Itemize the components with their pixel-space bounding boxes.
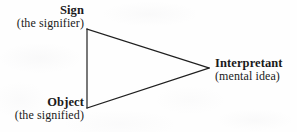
node-label-interpretant: Interpretant (mental idea) (215, 57, 283, 82)
edge-sign-interpretant (87, 29, 209, 68)
node-subtitle-object: (the signified) (0, 109, 84, 121)
edge-object-interpretant (87, 68, 209, 108)
node-label-object: Object (the signified) (0, 96, 84, 121)
node-label-sign: Sign (the signifier) (0, 4, 84, 29)
node-subtitle-sign: (the signifier) (0, 17, 84, 29)
semiotic-triangle-diagram: Sign (the signifier) Object (the signifi… (0, 0, 297, 132)
node-subtitle-interpretant: (mental idea) (215, 70, 283, 82)
